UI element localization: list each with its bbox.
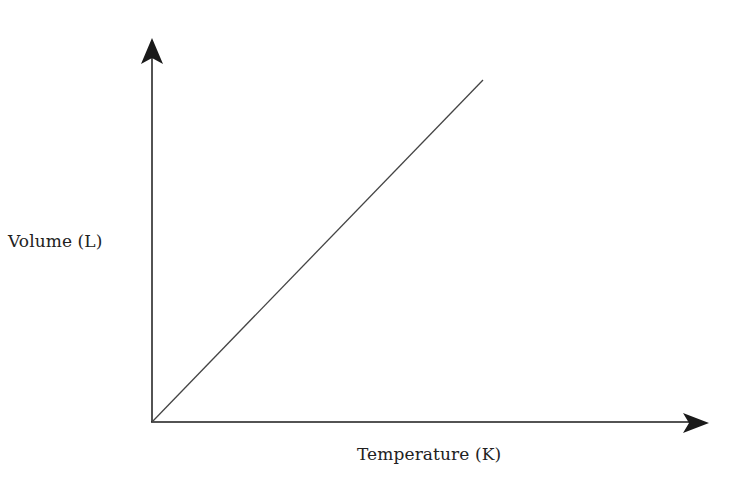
x-axis-label: Temperature (K) bbox=[357, 444, 501, 464]
y-axis-label: Volume (L) bbox=[8, 231, 102, 251]
x-axis-arrow-icon bbox=[683, 413, 709, 433]
diagram-canvas bbox=[0, 0, 742, 492]
data-line bbox=[152, 80, 483, 422]
volume-temperature-diagram: Volume (L) Temperature (K) bbox=[0, 0, 742, 492]
